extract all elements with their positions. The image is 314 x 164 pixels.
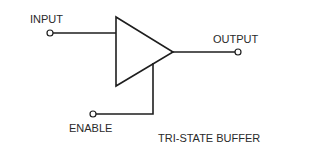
enable-terminal <box>90 111 96 117</box>
input-terminal <box>47 30 53 36</box>
diagram-title: TRI-STATE BUFFER <box>158 132 260 144</box>
input-label: INPUT <box>30 13 63 25</box>
output-terminal <box>235 49 241 55</box>
buffer-triangle <box>116 17 173 86</box>
enable-wire <box>96 63 153 114</box>
enable-label: ENABLE <box>69 122 112 134</box>
tri-state-buffer-diagram: INPUT OUTPUT ENABLE TRI-STATE BUFFER <box>0 0 314 164</box>
output-label: OUTPUT <box>213 33 259 45</box>
